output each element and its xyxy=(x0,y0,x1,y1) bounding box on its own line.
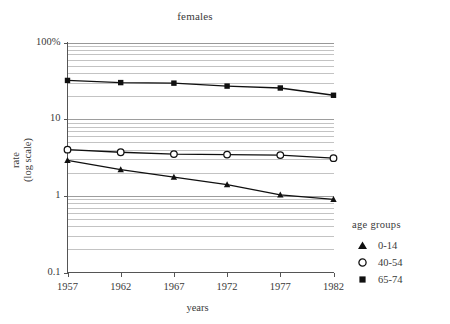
legend: age groups 0-14 40-54 65- xyxy=(352,219,447,288)
x-tick-label-1962: 1962 xyxy=(99,281,143,292)
legend-item-40-54[interactable]: 40-54 xyxy=(352,254,447,270)
filled-square-icon xyxy=(352,273,372,286)
x-tick-label-1957: 1957 xyxy=(46,281,90,292)
chart-figure: females 100% 10 1 0.1 1957 1962 1967 197… xyxy=(0,0,450,324)
filled-triangle-icon xyxy=(352,239,372,252)
gridlines-group xyxy=(68,44,334,250)
y-axis-title-line1: rate xyxy=(10,115,22,205)
y-tick-label-100: 100% xyxy=(19,36,61,47)
open-circle-icon xyxy=(352,256,372,269)
legend-label-65-74: 65-74 xyxy=(378,274,403,285)
legend-item-65-74[interactable]: 65-74 xyxy=(352,271,447,287)
x-tick-label-1977: 1977 xyxy=(258,281,302,292)
y-axis-title: rate (log scale) xyxy=(10,115,34,205)
y-tick-label-0.1: 0.1 xyxy=(19,266,61,277)
legend-label-40-54: 40-54 xyxy=(378,257,403,268)
legend-title: age groups xyxy=(352,219,447,230)
x-axis-title: years xyxy=(60,302,335,313)
legend-label-0-14: 0-14 xyxy=(378,240,397,251)
x-tick-label-1967: 1967 xyxy=(152,281,196,292)
y-axis-title-line2: (log scale) xyxy=(22,115,34,205)
axis-lines-group xyxy=(68,42,334,273)
legend-item-0-14[interactable]: 0-14 xyxy=(352,237,447,253)
x-tick-label-1972: 1972 xyxy=(205,281,249,292)
x-tick-label-1982: 1982 xyxy=(312,281,356,292)
